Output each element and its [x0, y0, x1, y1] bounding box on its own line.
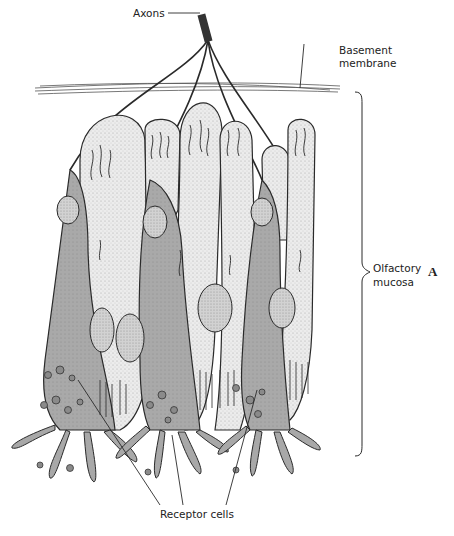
olfactory-mucosa-label-line2: mucosa [373, 276, 414, 288]
axons-label: Axons [133, 7, 165, 19]
panel-letter: A [428, 264, 437, 280]
olfactory-mucosa-brace [355, 92, 370, 456]
olfactory-mucosa-label-line1: Olfactory [373, 262, 421, 274]
basement-membrane [35, 83, 340, 94]
receptor-cell-feet [12, 425, 320, 482]
olfactory-mucosa-diagram: Axons Basement membrane Olfactory mucosa… [0, 0, 454, 536]
receptor-cells-label: Receptor cells [160, 508, 234, 520]
axon-bundle-tip [198, 13, 213, 42]
basement-membrane-label-line1: Basement [339, 44, 392, 56]
basement-membrane-label-line2: membrane [339, 57, 396, 69]
